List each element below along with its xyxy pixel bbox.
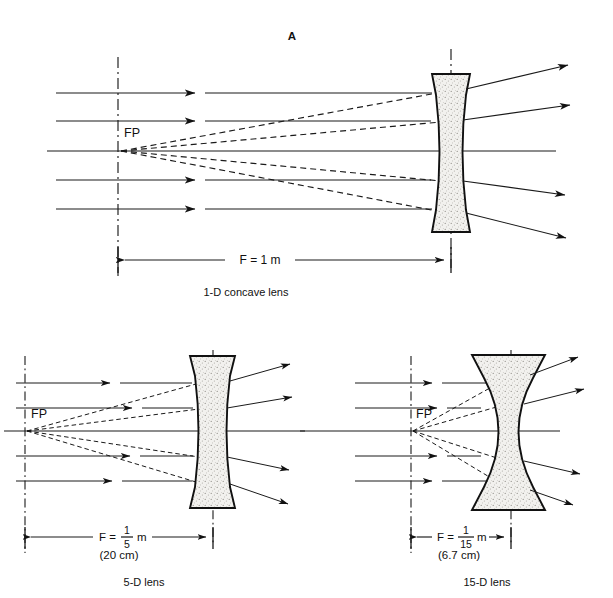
emergent-rays-bl [227,364,292,504]
concave-lens-bl [190,356,235,508]
dimension-label-bl: F = [99,531,116,543]
optics-figure: A [0,0,613,598]
caption-br: 15-D lens [463,576,511,588]
panel-label-a: A [288,30,296,42]
dimension-unit-bl: m [137,531,147,543]
panel-bottom-left: FP F = 1 5 m (20 cm) 5-D lens [4,350,305,588]
dimension-secondary-bl: (20 cm) [100,549,139,561]
dimension-numerator-bl: 1 [124,524,130,536]
caption-top: 1-D concave lens [204,286,289,298]
dimension-numerator-br: 1 [463,524,469,536]
virtual-rays-bl [27,384,199,482]
concave-lens-top [432,74,470,232]
dimension-br: F = 1 15 m (6.7 cm) [411,524,511,561]
panel-top: FP F = 1 m 1-D concave lens [47,49,570,298]
incident-rays-bl [4,383,305,481]
caption-bl: 5-D lens [124,576,165,588]
dimension-label-top: F = 1 m [239,253,280,267]
virtual-rays-top [121,93,441,211]
focal-point-label-bl: FP [31,407,47,421]
panel-bottom-right: FP F = 1 15 m (6.7 cm) 15-D lens [300,350,584,588]
focal-point-label-br: FP [416,407,432,421]
dimension-label-br: F = [437,531,454,543]
focal-point-label-top: FP [124,126,140,140]
dimension-bl: F = 1 5 m (20 cm) [25,524,213,561]
diagram-canvas: A [0,0,613,598]
concave-lens-br [472,355,545,510]
dimension-unit-br: m [477,531,487,543]
dimension-top: F = 1 m [118,247,451,273]
dimension-secondary-br: (6.7 cm) [438,549,480,561]
